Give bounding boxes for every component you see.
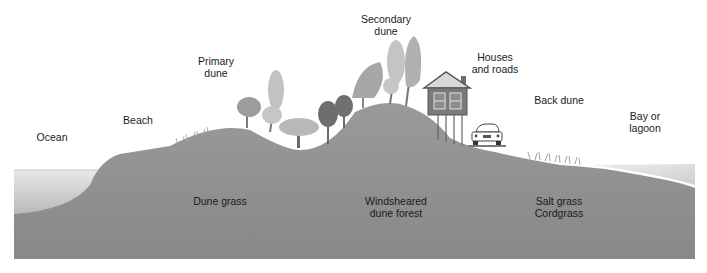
tree-windsheared-3 (405, 36, 421, 106)
tree-windsheared-1 (352, 62, 383, 108)
tree-broad-canopy (279, 118, 319, 148)
dune-cross-section (0, 0, 707, 273)
label-houses-roads: Houses and roads (472, 51, 519, 75)
tree-windsheared-2 (383, 40, 405, 104)
label-windsheared-forest: Windsheared dune forest (365, 195, 427, 219)
label-bay-lagoon: Bay or lagoon (629, 110, 661, 134)
tree-tall-pine-left (262, 70, 284, 132)
label-beach: Beach (123, 114, 153, 126)
car (468, 124, 506, 147)
label-secondary-dune: Secondary dune (361, 13, 411, 37)
tree-small-left (237, 97, 261, 128)
label-ocean: Ocean (37, 131, 68, 143)
label-dune-grass: Dune grass (193, 195, 247, 207)
label-back-dune: Back dune (534, 94, 584, 106)
label-primary-dune: Primary dune (198, 55, 234, 79)
label-salt-grass: Salt grass Cordgrass (535, 195, 583, 219)
dune-ground (14, 103, 695, 259)
